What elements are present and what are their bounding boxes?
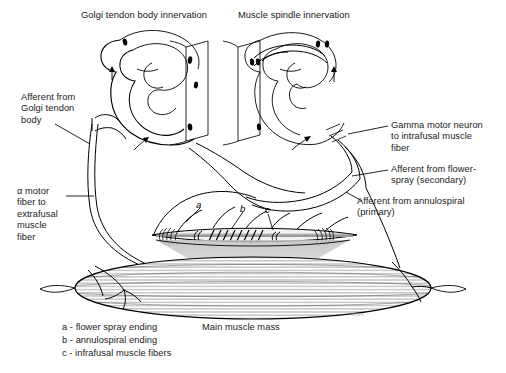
label-alpha-motor-fiber: α motor fiber to extrafusal muscle fiber — [17, 186, 58, 243]
neuron-cell-bodies-right — [249, 40, 329, 130]
leader-flower-spray — [352, 170, 388, 176]
afferent-spindle-fibers — [254, 45, 366, 188]
spinal-cord-segment-right — [223, 33, 344, 145]
marker-c: c — [265, 204, 270, 215]
marker-b: b — [240, 203, 245, 214]
legend-item-a: a - flower spray ending — [62, 321, 157, 334]
descending-nerve-fibers — [153, 143, 360, 236]
flow-arrows-left — [109, 66, 149, 150]
leader-marker-c — [268, 214, 273, 230]
watermark: скан — [352, 311, 364, 317]
label-afferent-annulospiral: Afferent from annulospiral (primary) — [357, 196, 465, 219]
leader-lines — [55, 124, 388, 230]
anatomy-diagram: Golgi tendon body innervation Muscle spi… — [0, 0, 506, 373]
label-afferent-golgi-tendon-body: Afferent from Golgi tendon body — [21, 92, 75, 126]
leader-gamma-motor — [348, 126, 388, 134]
legend-item-c: c - infrafusal muscle fibers — [62, 347, 171, 360]
label-main-muscle-mass: Main muscle mass — [202, 322, 280, 333]
marker-a: a — [196, 199, 201, 210]
legend-item-b: b - annulospiral ending — [62, 334, 157, 347]
main-muscle-mass — [40, 257, 466, 319]
title-muscle-spindle: Muscle spindle innervation — [238, 9, 350, 20]
label-afferent-flower-spray: Afferent from flower- spray (secondary) — [391, 164, 476, 187]
leader-afferent-golgi — [55, 124, 90, 144]
title-golgi-tendon: Golgi tendon body innervation — [81, 9, 207, 20]
label-gamma-motor-neuron: Gamma motor neuron to intrafusal muscle … — [391, 120, 483, 154]
